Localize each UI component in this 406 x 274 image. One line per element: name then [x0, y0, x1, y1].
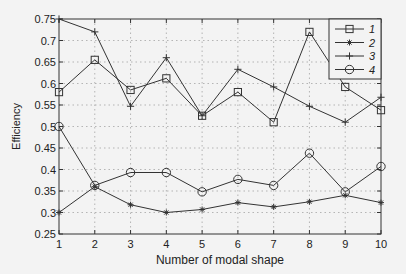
star-marker-icon	[128, 202, 134, 208]
x-tick-label: 1	[56, 238, 62, 250]
x-tick-label: 10	[375, 238, 387, 250]
y-tick-label: 0.75	[35, 13, 56, 25]
y-axis-label: Efficiency	[10, 103, 22, 150]
efficiency-line-chart: 0.250.30.350.40.450.50.550.60.650.70.751…	[0, 0, 406, 274]
x-tick-label: 5	[199, 238, 205, 250]
y-tick-label: 0.25	[35, 228, 56, 240]
y-tick-label: 0.5	[41, 121, 56, 133]
star-marker-icon	[347, 40, 353, 46]
plus-marker-icon	[91, 28, 98, 35]
series-line	[59, 187, 381, 213]
plus-marker-icon	[342, 119, 349, 126]
star-marker-icon	[199, 206, 205, 212]
series-line	[59, 127, 381, 192]
y-tick-label: 0.45	[35, 142, 56, 154]
x-tick-label: 8	[306, 238, 312, 250]
star-marker-icon	[235, 200, 241, 206]
plus-marker-icon	[270, 83, 277, 90]
legend-label: 1	[369, 23, 375, 35]
x-tick-label: 3	[127, 238, 133, 250]
series-2	[56, 184, 384, 216]
y-tick-label: 0.4	[41, 164, 56, 176]
legend-label: 4	[369, 64, 375, 76]
legend-label: 2	[368, 37, 375, 49]
x-tick-label: 6	[235, 238, 241, 250]
plus-marker-icon	[163, 54, 170, 61]
x-tick-label: 2	[92, 238, 98, 250]
y-tick-label: 0.55	[35, 99, 56, 111]
y-tick-label: 0.3	[41, 207, 56, 219]
star-marker-icon	[163, 210, 169, 216]
legend: 1234	[329, 19, 381, 79]
x-tick-label: 4	[163, 238, 169, 250]
y-tick-label: 0.65	[35, 56, 56, 68]
y-tick-label: 0.7	[41, 35, 56, 47]
star-marker-icon	[306, 199, 312, 205]
chart-canvas: 0.250.30.350.40.450.50.550.60.650.70.751…	[0, 0, 406, 274]
x-tick-label: 7	[271, 238, 277, 250]
plus-marker-icon	[127, 103, 134, 110]
y-tick-label: 0.6	[41, 78, 56, 90]
plus-marker-icon	[306, 103, 313, 110]
series-4	[55, 122, 385, 196]
x-tick-label: 9	[342, 238, 348, 250]
legend-label: 3	[369, 50, 376, 62]
x-axis-label: Number of modal shape	[156, 253, 284, 267]
y-tick-label: 0.35	[35, 185, 56, 197]
star-marker-icon	[271, 204, 277, 210]
